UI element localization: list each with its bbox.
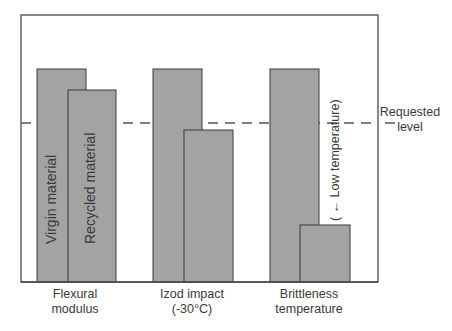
category-label-line2: (-30°C) — [137, 302, 247, 317]
category-flexural-modulus: Flexural modulus — [20, 287, 130, 317]
series-label-recycled: Recycled material — [82, 133, 98, 244]
requested-level-line2: level — [374, 120, 446, 135]
series-label-virgin: Virgin material — [43, 155, 59, 244]
category-label-line2: temperature — [254, 302, 364, 317]
category-label-line2: modulus — [20, 302, 130, 317]
category-brittleness-temperature: Brittleness temperature — [254, 287, 364, 317]
chart-canvas — [0, 0, 452, 331]
requested-level-line1: Requested — [374, 105, 446, 120]
bar-izod-recycled — [184, 130, 233, 282]
bar-brittleness-recycled — [300, 225, 350, 282]
low-temperature-annotation: ( ← Low temperature) — [328, 99, 342, 221]
category-izod-impact: Izod impact (-30°C) — [137, 287, 247, 317]
category-label-line1: Flexural — [20, 287, 130, 302]
category-label-line1: Izod impact — [137, 287, 247, 302]
category-label-line1: Brittleness — [254, 287, 364, 302]
requested-level-label: Requested level — [374, 105, 446, 135]
